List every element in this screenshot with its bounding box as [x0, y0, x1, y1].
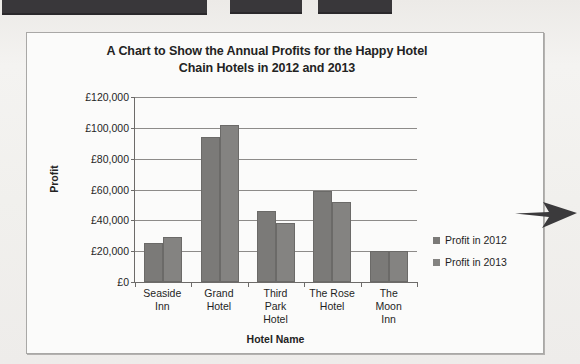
chart-title-line-2: Chain Hotels in 2012 and 2013 — [47, 60, 487, 77]
legend-swatch-icon — [433, 259, 440, 266]
bar-2013[interactable] — [332, 202, 351, 282]
x-axis-tick-label-line: Hotel — [192, 300, 247, 313]
x-axis-tick-label: ThirdParkHotel — [247, 287, 304, 326]
x-axis-tick-label-line: Third — [248, 287, 303, 300]
bar-group — [191, 97, 247, 282]
x-axis-title: Hotel Name — [134, 333, 417, 345]
legend-item-2013[interactable]: Profit in 2013 — [433, 251, 507, 273]
bar-group — [248, 97, 304, 282]
legend-item-2012[interactable]: Profit in 2012 — [433, 229, 507, 251]
y-axis-tick-label: £100,000 — [85, 122, 129, 134]
redaction-bar-group — [0, 0, 580, 16]
x-axis-tick-mark — [417, 282, 418, 287]
plot-area: £120,000£100,000£80,000£60,000£40,000£20… — [134, 97, 417, 283]
arrow-annotation-icon — [513, 198, 579, 232]
bar-group — [361, 97, 417, 282]
chart-title: A Chart to Show the Annual Profits for t… — [47, 43, 487, 77]
redaction-bar-3 — [318, 0, 392, 14]
redaction-bar-1 — [2, 0, 207, 15]
bar-2012[interactable] — [313, 191, 332, 282]
legend-label: Profit in 2012 — [445, 234, 507, 246]
bar-2013[interactable] — [276, 223, 295, 282]
y-axis-tick-label: £80,000 — [91, 153, 129, 165]
chart-container: A Chart to Show the Annual Profits for t… — [26, 32, 544, 354]
x-axis-tick-label: The RoseHotel — [304, 287, 361, 326]
x-axis-tick-label: TheMoonInn — [360, 287, 417, 326]
x-axis-tick-label-line: Hotel — [305, 300, 360, 313]
x-axis-tick-label: SeasideInn — [134, 287, 191, 326]
bar-2013[interactable] — [220, 125, 239, 282]
y-axis-title: Profit — [48, 139, 60, 219]
y-axis-tick-label: £0 — [117, 276, 129, 288]
bar-2012[interactable] — [144, 243, 163, 282]
legend-label: Profit in 2013 — [445, 256, 507, 268]
bar-2013[interactable] — [163, 237, 182, 282]
y-axis-tick-label: £120,000 — [85, 91, 129, 103]
redaction-bar-2 — [230, 0, 302, 14]
gridline — [135, 282, 417, 283]
chart-title-line-1: A Chart to Show the Annual Profits for t… — [107, 44, 428, 58]
bar-2012[interactable] — [370, 251, 389, 282]
y-axis-tick-label: £60,000 — [91, 184, 129, 196]
x-axis-tick-label-line: The — [361, 287, 416, 300]
y-axis-tick-label: £40,000 — [91, 214, 129, 226]
x-axis-tick-label-line: Inn — [361, 313, 416, 326]
chart-legend: Profit in 2012Profit in 2013 — [433, 229, 507, 273]
bar-group — [135, 97, 191, 282]
x-axis-tick-label-line: The Rose — [305, 287, 360, 300]
x-axis-tick-label-line: Park — [248, 300, 303, 313]
bar-2012[interactable] — [257, 211, 276, 282]
x-axis-tick-label: GrandHotel — [191, 287, 248, 326]
x-axis-tick-label-line: Grand — [192, 287, 247, 300]
bar-group — [304, 97, 360, 282]
legend-swatch-icon — [433, 237, 440, 244]
x-axis-tick-label-line: Seaside — [135, 287, 190, 300]
bar-2012[interactable] — [201, 137, 220, 282]
x-axis-tick-label-line: Moon — [361, 300, 416, 313]
plot-area-wrapper: £120,000£100,000£80,000£60,000£40,000£20… — [134, 97, 417, 283]
y-axis-tick-label: £20,000 — [91, 245, 129, 257]
bar-series-group — [135, 97, 417, 282]
x-axis-tick-label-line: Inn — [135, 300, 190, 313]
bar-2013[interactable] — [389, 251, 408, 282]
x-axis-tick-labels: SeasideInnGrandHotelThirdParkHotelThe Ro… — [134, 287, 417, 326]
x-axis-tick-label-line: Hotel — [248, 313, 303, 326]
